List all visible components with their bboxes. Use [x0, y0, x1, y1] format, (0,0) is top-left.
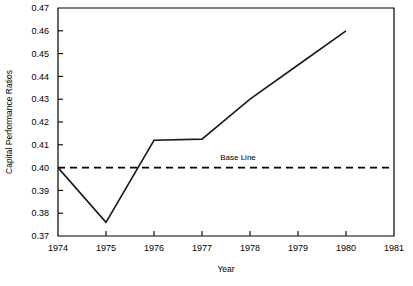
x-tick-label: 1975: [96, 243, 116, 253]
y-tick-label: 0.45: [31, 49, 49, 59]
y-tick-label: 0.46: [31, 26, 49, 36]
y-tick-label: 0.42: [31, 117, 49, 127]
y-tick-label: 0.47: [31, 3, 49, 13]
y-tick-label: 0.37: [31, 231, 49, 241]
y-tick-label: 0.39: [31, 186, 49, 196]
x-tick-label: 1977: [192, 243, 212, 253]
x-tick-label: 1980: [336, 243, 356, 253]
line-chart: 0.370.380.390.400.410.420.430.440.450.46…: [0, 0, 413, 286]
x-axis-title: Year: [217, 264, 234, 274]
x-tick-label: 1978: [240, 243, 260, 253]
x-tick-label: 1976: [144, 243, 164, 253]
chart-container: 0.370.380.390.400.410.420.430.440.450.46…: [0, 0, 413, 286]
x-tick-label: 1979: [288, 243, 308, 253]
base-line-annotation: Base Line: [220, 153, 256, 162]
y-axis-title: Capital Performance Ratios: [4, 70, 14, 174]
y-tick-label: 0.40: [31, 163, 49, 173]
y-tick-label: 0.44: [31, 72, 49, 82]
y-tick-label: 0.43: [31, 94, 49, 104]
x-tick-label: 1974: [48, 243, 68, 253]
y-tick-label: 0.38: [31, 208, 49, 218]
x-tick-label: 1981: [384, 243, 404, 253]
y-tick-label: 0.41: [31, 140, 49, 150]
